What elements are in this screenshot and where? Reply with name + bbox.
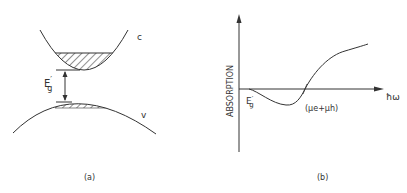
panel-b: ABSORPTION ħω E′g (μe+μh) (b) — [226, 14, 400, 182]
crossing-label: (μe+μh) — [305, 104, 338, 113]
panel-a-caption: (a) — [84, 173, 95, 182]
y-axis-arrow-icon — [237, 14, 242, 23]
band-diagram-figure: c E′g v (a) ABS — [0, 0, 407, 193]
x-axis-arrow-icon — [374, 87, 384, 92]
panel-b-caption: (b) — [317, 173, 328, 182]
x-axis-label: ħω — [386, 92, 400, 102]
gap-energy-label: E′g — [44, 76, 52, 93]
valence-band-label: v — [141, 110, 147, 120]
y-axis-label: ABSORPTION — [226, 65, 235, 117]
panel-a: c E′g v (a) — [13, 30, 156, 182]
absorption-curve — [249, 44, 368, 105]
gap-double-arrow-icon — [63, 71, 68, 101]
threshold-label: E′g — [246, 95, 254, 109]
conduction-band-label: c — [137, 32, 142, 42]
